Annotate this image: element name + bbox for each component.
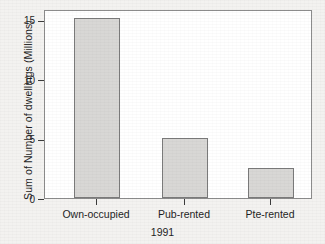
y-tick-label-0: 0 — [8, 195, 35, 205]
x-tick-mark-pte-rented — [270, 199, 271, 205]
x-tick-mark-own-occupied — [96, 199, 97, 205]
y-tick-label-10: 10 — [8, 76, 35, 86]
plot-area — [44, 10, 312, 199]
bar-chart-figure: Sum of Number of dwellings (Millions) 0 … — [0, 0, 325, 244]
bar-own-occupied[interactable] — [74, 18, 120, 198]
plot-inner — [45, 11, 311, 198]
x-tick-label-pub-rented: Pub-rented — [134, 208, 234, 220]
y-tick-label-15: 15 — [8, 16, 35, 26]
x-tick-mark-pub-rented — [184, 199, 185, 205]
bar-pte-rented[interactable] — [248, 168, 294, 198]
x-axis-title: 1991 — [0, 226, 325, 238]
y-tick-label-5: 5 — [8, 135, 35, 145]
bar-pub-rented[interactable] — [162, 138, 208, 198]
y-axis-title: Sum of Number of dwellings (Millions) — [22, 10, 34, 210]
y-tick-mark-0 — [38, 199, 44, 200]
x-tick-label-pte-rented: Pte-rented — [222, 208, 318, 220]
